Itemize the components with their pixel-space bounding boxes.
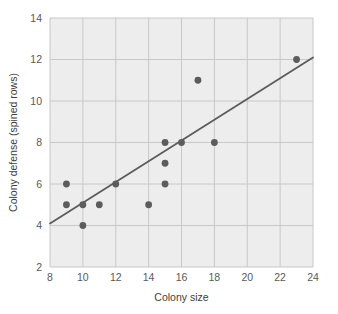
data-point: [96, 201, 103, 208]
y-tick-label: 12: [30, 53, 42, 65]
y-tick-label: 2: [36, 261, 42, 273]
x-tick-label: 22: [274, 271, 286, 283]
x-tick-label: 12: [110, 271, 122, 283]
y-tick-label: 6: [36, 178, 42, 190]
data-point: [162, 181, 169, 188]
data-point: [112, 181, 119, 188]
y-axis-title: Colony defense (spined rows): [7, 73, 19, 212]
data-point: [211, 139, 218, 146]
data-point: [79, 222, 86, 229]
y-tick-label: 14: [30, 12, 42, 24]
data-point: [162, 139, 169, 146]
scatter-chart: 81012141618202224 2468101214 Colony size…: [0, 0, 338, 314]
x-axis-tick-labels: 81012141618202224: [47, 271, 319, 283]
data-point: [79, 201, 86, 208]
x-tick-label: 16: [176, 271, 188, 283]
x-tick-label: 8: [47, 271, 53, 283]
chart-canvas: 81012141618202224 2468101214 Colony size…: [0, 0, 338, 314]
data-point: [63, 201, 70, 208]
data-point: [145, 201, 152, 208]
y-tick-label: 10: [30, 95, 42, 107]
x-tick-label: 18: [209, 271, 221, 283]
x-tick-label: 20: [241, 271, 253, 283]
x-tick-label: 14: [143, 271, 155, 283]
y-tick-label: 8: [36, 136, 42, 148]
x-tick-label: 10: [77, 271, 89, 283]
data-point: [162, 160, 169, 167]
x-axis-title: Colony size: [154, 291, 208, 303]
data-point: [293, 56, 300, 63]
y-tick-label: 4: [36, 219, 42, 231]
data-point: [195, 77, 202, 84]
data-point: [63, 181, 70, 188]
data-point: [178, 139, 185, 146]
x-tick-label: 24: [307, 271, 319, 283]
